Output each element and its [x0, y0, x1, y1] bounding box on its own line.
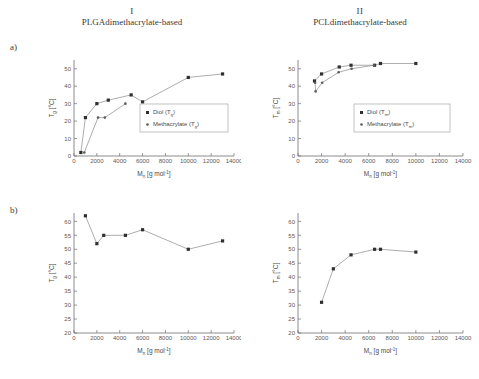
y-tick-label: 30: [64, 101, 71, 107]
y-tick-label: 20: [288, 330, 295, 336]
data-point: [379, 248, 382, 251]
plot-b-II: 2025303540455055600200040006000800010000…: [258, 205, 473, 370]
y-axis-title: Tm [°C]: [272, 98, 281, 119]
data-point: [337, 71, 340, 74]
data-point: [107, 99, 110, 102]
x-tick-label: 0: [296, 158, 300, 164]
column-caption-I: PLGAdimethacrylate-based: [42, 17, 222, 28]
data-point: [102, 234, 105, 237]
data-point: [321, 81, 324, 84]
data-point: [187, 76, 190, 79]
x-tick-label: 12000: [431, 335, 448, 341]
x-tick-label: 8000: [159, 335, 173, 341]
x-axis-title: Mn [g mol-1]: [364, 347, 397, 356]
x-tick-label: 8000: [386, 158, 400, 164]
plot-a-II: 0102030405002000400060008000100001200014…: [258, 52, 473, 187]
x-tick-label: 12000: [203, 158, 220, 164]
series-line: [315, 63, 416, 80]
x-tick-label: 2000: [315, 158, 329, 164]
data-point: [338, 65, 341, 68]
y-tick-label: 50: [64, 246, 71, 252]
y-tick-label: 30: [288, 302, 295, 308]
column-numeral-I: I: [42, 6, 222, 17]
data-point: [350, 67, 353, 70]
data-point: [141, 228, 144, 231]
y-tick-label: 40: [288, 274, 295, 280]
x-tick-label: 14000: [226, 158, 241, 164]
x-tick-label: 6000: [136, 158, 150, 164]
row-label-a: a): [10, 42, 17, 52]
y-tick-label: 50: [64, 66, 71, 72]
column-header-I: I PLGAdimethacrylate-based: [42, 6, 222, 28]
data-point: [83, 151, 86, 154]
x-tick-label: 10000: [408, 335, 425, 341]
x-tick-label: 10000: [408, 158, 425, 164]
series-line: [322, 249, 416, 302]
data-point: [79, 151, 82, 154]
data-point: [373, 64, 376, 67]
x-tick-label: 6000: [136, 335, 150, 341]
y-tick-label: 40: [288, 83, 295, 89]
y-tick-label: 50: [288, 66, 295, 72]
legend-marker: [146, 111, 149, 114]
data-point: [349, 64, 352, 67]
x-axis-title: Mn [g mol-1]: [137, 170, 170, 179]
y-tick-label: 25: [288, 316, 295, 322]
data-point: [124, 234, 127, 237]
y-tick-label: 40: [64, 274, 71, 280]
column-caption-II: PCLdimethacrylate-based: [265, 17, 455, 28]
y-tick-label: 30: [64, 302, 71, 308]
x-tick-label: 2000: [315, 335, 329, 341]
y-tick-label: 50: [288, 246, 295, 252]
y-tick-label: 55: [288, 233, 295, 239]
series-line: [315, 65, 374, 91]
x-tick-label: 14000: [455, 335, 472, 341]
x-axis-title: Mn [g mol-1]: [364, 170, 397, 179]
y-tick-label: 20: [64, 330, 71, 336]
x-tick-label: 2000: [90, 158, 104, 164]
y-tick-label: 20: [288, 118, 295, 124]
data-point: [379, 62, 382, 65]
y-tick-label: 60: [64, 219, 71, 225]
data-point: [124, 102, 127, 105]
y-tick-label: 60: [288, 219, 295, 225]
legend-marker: [360, 123, 363, 126]
x-tick-label: 14000: [226, 335, 241, 341]
y-axis-title: Tg [°C]: [48, 98, 57, 117]
y-tick-label: 10: [64, 136, 71, 142]
series-line: [85, 216, 222, 249]
x-tick-label: 4000: [338, 335, 352, 341]
data-point: [84, 214, 87, 217]
data-point: [221, 72, 224, 75]
x-tick-label: 8000: [159, 158, 173, 164]
data-point: [130, 93, 133, 96]
y-tick-label: 35: [288, 288, 295, 294]
y-tick-label: 0: [292, 153, 296, 159]
x-tick-label: 4000: [113, 158, 127, 164]
column-numeral-II: II: [265, 6, 455, 17]
y-tick-label: 40: [64, 83, 71, 89]
data-point: [373, 248, 376, 251]
y-tick-label: 30: [288, 101, 295, 107]
data-point: [414, 250, 417, 253]
data-point: [320, 301, 323, 304]
row-label-b: b): [10, 205, 18, 215]
data-point: [97, 116, 100, 119]
x-tick-label: 8000: [386, 335, 400, 341]
legend-marker: [360, 111, 363, 114]
data-point: [95, 242, 98, 245]
y-tick-label: 45: [64, 260, 71, 266]
y-axis-title: Tg [°C]: [48, 263, 57, 282]
data-point: [332, 267, 335, 270]
y-axis-title: Tm [°C]: [272, 263, 281, 284]
data-point: [221, 239, 224, 242]
data-point: [314, 81, 317, 84]
y-tick-label: 20: [64, 118, 71, 124]
data-point: [84, 116, 87, 119]
y-tick-label: 45: [288, 260, 295, 266]
x-tick-label: 4000: [113, 335, 127, 341]
data-point: [320, 72, 323, 75]
y-tick-label: 0: [68, 153, 72, 159]
legend-marker: [146, 123, 149, 126]
x-tick-label: 14000: [455, 158, 472, 164]
